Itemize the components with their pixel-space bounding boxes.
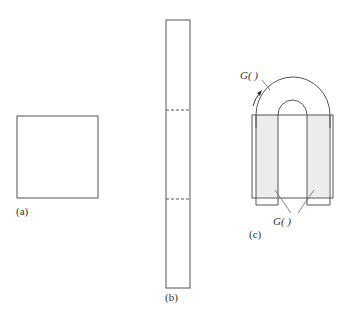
- top-annotation: G( ): [240, 69, 258, 82]
- panel-a-label: (a): [16, 205, 29, 218]
- square-shape: [17, 116, 98, 198]
- panel-b: (b): [165, 20, 190, 304]
- inner-arch: [278, 100, 307, 128]
- panel-c-label: (c): [249, 228, 262, 241]
- panel-c: G( ) G( ) (c): [240, 69, 333, 241]
- leader-line-left: [275, 190, 291, 213]
- panel-a: (a): [16, 116, 98, 218]
- leader-line-right: [298, 190, 314, 213]
- right-shaded-leg: [307, 115, 329, 197]
- panel-b-label: (b): [165, 291, 178, 304]
- strip-shape: [166, 20, 190, 288]
- figure-canvas: (a) (b) G( ) G( ) (c: [0, 0, 348, 317]
- left-shaded-leg: [256, 115, 278, 197]
- bottom-annotation: G( ): [273, 215, 291, 228]
